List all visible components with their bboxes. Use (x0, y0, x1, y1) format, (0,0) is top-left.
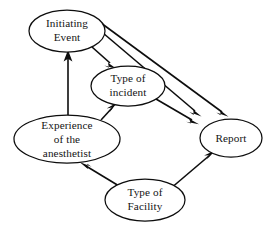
node-label-initiating-event-line2: Event (54, 31, 81, 43)
node-label-experience-line3: anesthetist (43, 147, 92, 159)
node-label-type-of-incident-line1: Type of (110, 72, 145, 84)
graph-canvas: Initiating Event Type of incident Experi… (0, 0, 277, 232)
arrow-head-icon (186, 119, 199, 125)
causal-diagram: Initiating Event Type of incident Experi… (0, 0, 277, 232)
edge-experience-to-initiating-event (64, 50, 73, 115)
node-label-type-of-facility-line2: Facility (128, 200, 163, 212)
node-experience-of-the-anesthetist[interactable]: Experience of the anesthetist (14, 115, 120, 163)
edge-type-of-incident-to-report (156, 99, 199, 124)
node-label-initiating-event-line1: Initiating (46, 17, 88, 29)
node-label-experience-line2: of the (54, 133, 80, 145)
node-label-type-of-incident-line2: incident (110, 86, 148, 98)
arrow-head-icon (216, 110, 228, 117)
node-initiating-event[interactable]: Initiating Event (29, 10, 105, 52)
edge-initiating-event-to-type-of-incident (92, 47, 117, 69)
node-label-report: Report (215, 132, 247, 144)
node-label-type-of-facility-line1: Type of (127, 186, 162, 198)
node-report[interactable]: Report (200, 119, 262, 157)
edge-type-of-facility-to-report (170, 150, 216, 189)
node-label-experience-line1: Experience (41, 119, 92, 131)
node-type-of-incident[interactable]: Type of incident (91, 66, 165, 106)
arrow-head-icon (189, 110, 201, 117)
node-type-of-facility[interactable]: Type of Facility (105, 179, 185, 221)
